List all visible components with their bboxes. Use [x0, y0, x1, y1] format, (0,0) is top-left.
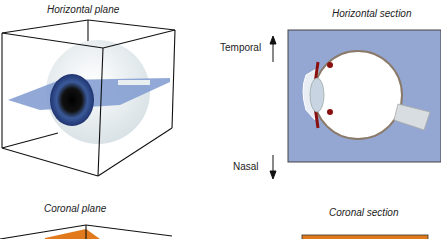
- coronal-section-panel: [302, 235, 428, 239]
- optic-nerve-3d: [118, 80, 150, 85]
- eyeball-3d: [8, 40, 170, 144]
- nasal-arrow-icon: [270, 155, 276, 179]
- coronal-plane-cube: [0, 225, 172, 239]
- iris-icon: [50, 74, 94, 126]
- anatomy-diagram: [0, 0, 441, 239]
- lens: [310, 78, 324, 112]
- horizontal-section-panel: [288, 30, 441, 162]
- temporal-arrow-icon: [270, 36, 276, 62]
